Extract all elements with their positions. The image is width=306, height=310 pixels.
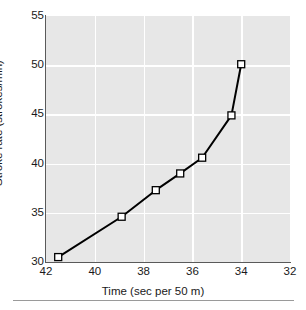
x-axis-title: Time (sec per 50 m) — [0, 285, 306, 297]
figure-caption — [13, 303, 294, 310]
data-point-marker — [228, 112, 235, 119]
y-tick-label: 40 — [4, 158, 44, 170]
data-point-marker — [152, 187, 159, 194]
x-axis-line — [45, 262, 291, 263]
data-point-marker — [118, 213, 125, 220]
figure-container: 303540455055 424038363432 Stroke rate (s… — [0, 0, 306, 310]
x-tick-label: 32 — [270, 265, 306, 277]
data-point-marker — [55, 254, 62, 261]
caption-divider — [13, 300, 294, 301]
y-tick-label: 55 — [4, 10, 44, 22]
x-tick-label: 34 — [221, 265, 261, 277]
y-tick-label: 45 — [4, 108, 44, 120]
x-tick-label: 36 — [172, 265, 212, 277]
x-tick-label: 42 — [26, 265, 66, 277]
y-axis-title: Stroke rate (strokes/min) — [0, 0, 6, 246]
y-tick-label: 50 — [4, 59, 44, 71]
x-tick-label: 40 — [75, 265, 115, 277]
data-point-marker — [177, 170, 184, 177]
y-tick-label: 35 — [4, 207, 44, 219]
data-point-marker — [199, 154, 206, 161]
data-point-marker — [238, 61, 245, 68]
data-series-line — [46, 16, 290, 262]
x-tick-label: 38 — [124, 265, 164, 277]
y-axis-line — [45, 15, 46, 263]
series-polyline — [58, 64, 241, 257]
chart-plot-area — [46, 16, 290, 262]
